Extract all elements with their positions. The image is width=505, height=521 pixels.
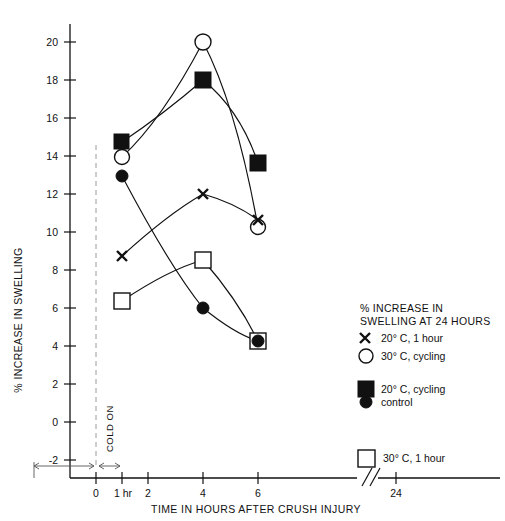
y-tick-label: -2 bbox=[49, 454, 58, 466]
y-tick-label: 8 bbox=[52, 264, 58, 276]
legend-label: control bbox=[381, 396, 413, 408]
series-line-20c-1hour bbox=[122, 194, 258, 256]
y-tick-label: 16 bbox=[46, 112, 58, 124]
legend-item-20c-1hour[interactable]: 20° C, 1 hour bbox=[360, 332, 443, 344]
data-point-filled-square bbox=[114, 134, 129, 149]
data-point-x-cross bbox=[198, 189, 208, 199]
legend-header-line-1: % INCREASE IN bbox=[360, 302, 443, 314]
data-point-filled-circle bbox=[197, 302, 209, 314]
data-point-open-circle bbox=[195, 34, 211, 50]
open-square-icon bbox=[358, 450, 375, 467]
y-tick-label: 6 bbox=[52, 302, 58, 314]
data-point-filled-circle bbox=[116, 170, 128, 182]
open-circle-icon bbox=[359, 349, 373, 363]
y-tick-label: 4 bbox=[52, 340, 58, 352]
y-tick-label: 14 bbox=[46, 150, 58, 162]
y-tick-label: 12 bbox=[46, 188, 58, 200]
chart-legend: % INCREASE IN SWELLING AT 24 HOURS 20° C… bbox=[358, 302, 490, 467]
duration-arrows bbox=[34, 462, 120, 478]
legend-item-control[interactable]: control bbox=[360, 396, 413, 408]
x-tick-label: 24 bbox=[390, 487, 402, 499]
data-point-x-cross bbox=[117, 251, 127, 261]
legend-header-line-2: SWELLING AT 24 HOURS bbox=[360, 315, 490, 327]
data-point-filled-circle bbox=[252, 335, 264, 347]
data-point-open-square bbox=[114, 293, 130, 309]
series-line-20c-cycling bbox=[122, 80, 258, 163]
x-cross-icon bbox=[360, 333, 370, 343]
markers-20c-1hour bbox=[117, 189, 263, 261]
chart-canvas: 20 18 16 14 12 10 8 6 4 2 0 -2 % INCREAS… bbox=[0, 0, 505, 521]
x-axis bbox=[70, 468, 500, 486]
legend-label: 20° C, cycling bbox=[381, 383, 445, 395]
filled-circle-icon bbox=[360, 396, 372, 408]
data-point-filled-square bbox=[250, 155, 266, 171]
series-line-30c-cycling bbox=[122, 42, 258, 227]
series-line-control bbox=[122, 176, 258, 341]
data-point-filled-square bbox=[195, 72, 211, 88]
x-axis-title: TIME IN HOURS AFTER CRUSH INJURY bbox=[151, 503, 361, 515]
y-tick-label: 20 bbox=[46, 36, 58, 48]
y-axis-tick-labels: 20 18 16 14 12 10 8 6 4 2 0 -2 bbox=[46, 36, 58, 466]
legend-label: 30° C, cycling bbox=[381, 350, 445, 362]
x-tick-label: 4 bbox=[200, 487, 206, 499]
data-point-open-circle bbox=[251, 220, 266, 235]
data-point-open-square bbox=[195, 252, 211, 268]
x-axis-tick-labels: 0 1 hr 2 4 6 24 bbox=[93, 487, 402, 499]
x-tick-label: 0 bbox=[93, 487, 99, 499]
chart-figure: 20 18 16 14 12 10 8 6 4 2 0 -2 % INCREAS… bbox=[0, 0, 505, 521]
legend-item-30c-1hour[interactable]: 30° C, 1 hour bbox=[358, 450, 445, 467]
series-line-30c-1hour bbox=[122, 260, 258, 341]
y-tick-label: 18 bbox=[46, 74, 58, 86]
x-tick-label: 6 bbox=[255, 487, 261, 499]
y-axis-title: % INCREASE IN SWELLING bbox=[12, 247, 24, 392]
legend-label: 20° C, 1 hour bbox=[381, 332, 443, 344]
x-tick-label: 2 bbox=[145, 487, 151, 499]
data-point-open-circle bbox=[115, 150, 130, 165]
legend-item-30c-cycling[interactable]: 30° C, cycling bbox=[359, 349, 445, 363]
cold-on-label: COLD ON bbox=[104, 405, 115, 452]
y-tick-label: 0 bbox=[52, 416, 58, 428]
y-axis bbox=[64, 24, 76, 478]
legend-item-20c-cycling[interactable]: 20° C, cycling bbox=[358, 381, 445, 397]
x-tick-label: 1 hr bbox=[114, 487, 133, 499]
filled-square-icon bbox=[358, 381, 374, 397]
y-tick-label: 10 bbox=[46, 226, 58, 238]
y-tick-label: 2 bbox=[52, 378, 58, 390]
markers-control bbox=[116, 170, 264, 347]
legend-label: 30° C, 1 hour bbox=[383, 452, 445, 464]
